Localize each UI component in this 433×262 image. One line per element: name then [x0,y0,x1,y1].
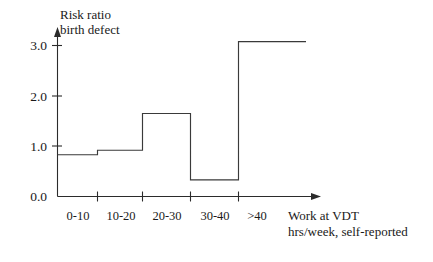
x-tick-label-30-40: 30-40 [200,209,229,223]
y-axis-title-line1: Risk ratio [60,7,111,22]
x-axis-arrow-icon [311,193,321,200]
y-tick-label-2: 2.0 [30,89,47,104]
x-tick-label-10-20: 10-20 [106,209,135,223]
x-tick-label-20-30: 20-30 [152,209,181,223]
x-tick-label-over-40: >40 [247,209,267,223]
chart-figure: 3.0 2.0 1.0 0.0 0-10 10-20 20-30 30-40 >… [0,0,433,262]
step-chart-plot: 3.0 2.0 1.0 0.0 0-10 10-20 20-30 30-40 >… [0,0,433,262]
x-tick-label-0-10: 0-10 [67,209,90,223]
x-axis-title-line2: hrs/week, self-reported [288,224,408,239]
y-tick-label-3: 3.0 [30,38,47,53]
step-line-series [58,42,307,180]
y-tick-label-1: 1.0 [30,139,47,154]
y-axis-title-line2: birth defect [60,22,120,37]
x-axis-title-line1: Work at VDT [288,208,359,223]
y-tick-label-0: 0.0 [30,189,47,204]
